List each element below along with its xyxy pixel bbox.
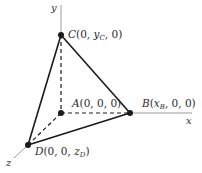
tetrahedron-diagram: y x z C(0, yC, 0) A(0, 0, 0) B(xB, 0, 0)… — [0, 0, 202, 173]
label-c: C(0, yC, 0) — [68, 28, 122, 42]
label-b: B(xB, 0, 0) — [141, 97, 196, 111]
point-a — [58, 110, 64, 116]
edge-d-b — [28, 113, 130, 145]
point-c — [58, 32, 64, 38]
point-b — [127, 110, 133, 116]
label-a: A(0, 0, 0) — [71, 97, 121, 109]
label-d: D(0, 0, zD) — [34, 145, 90, 159]
x-axis-label: x — [186, 115, 192, 126]
z-axis-label: z — [5, 157, 12, 168]
point-d — [25, 142, 31, 148]
y-axis-label: y — [50, 2, 57, 13]
